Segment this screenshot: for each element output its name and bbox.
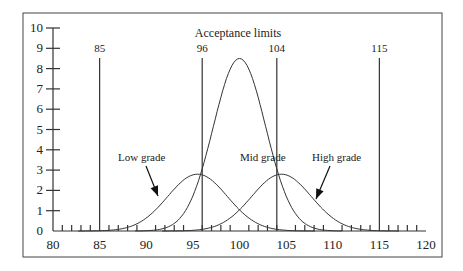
axes: 80859095100105110115120012345678910 [30,20,436,252]
annotations: Low gradeMid gradeHigh grade [118,151,361,199]
y-tick-label: 3 [37,162,44,177]
annotation-label: High grade [312,151,361,163]
arrowhead-icon [316,188,324,199]
x-tick-label: 120 [416,237,436,252]
acceptance-limit-label: 104 [269,42,286,54]
acceptance-limit-lines: 8596104115 [94,42,388,231]
chart: 80859095100105110115120012345678910 8596… [0,0,463,271]
acceptance-limit-label: 115 [371,42,388,54]
y-tick-label: 7 [37,81,44,96]
annotation-label: Mid grade [240,151,286,163]
y-tick-label: 6 [37,101,44,116]
x-tick-label: 110 [323,237,342,252]
acceptance-limit-label: 96 [197,42,209,54]
y-tick-label: 4 [37,142,44,157]
y-tick-label: 2 [37,182,44,197]
x-tick-label: 100 [230,237,250,252]
x-tick-label: 95 [186,237,199,252]
x-tick-label: 105 [276,237,296,252]
curve-mid-grade [135,59,342,231]
x-tick-label: 80 [47,237,60,252]
y-tick-label: 5 [37,122,44,137]
arrowhead-icon [151,185,158,196]
annotation-label: Low grade [118,151,165,163]
x-tick-label: 115 [370,237,389,252]
x-tick-label: 85 [93,237,106,252]
y-tick-label: 9 [37,40,44,55]
x-tick-label: 90 [140,237,153,252]
curve-low-grade [78,174,315,231]
y-tick-label: 0 [37,223,44,238]
y-tick-label: 10 [30,20,43,35]
y-tick-label: 1 [37,203,44,218]
acceptance-limit-label: 85 [94,42,106,54]
chart-title: Acceptance limits [195,26,282,40]
distribution-curves [78,59,399,232]
y-tick-label: 8 [37,61,44,76]
